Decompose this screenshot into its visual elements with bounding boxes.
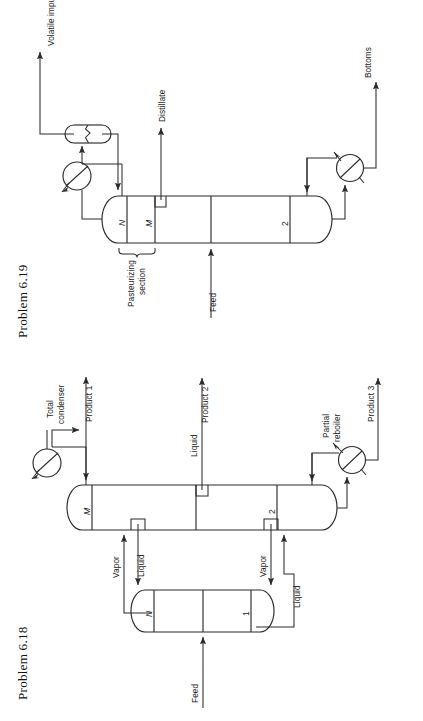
pipe-reboiler-vapor-return bbox=[337, 477, 347, 508]
label-liquid-right: Liquid bbox=[293, 585, 302, 608]
label-bottoms: Bottoms bbox=[364, 47, 373, 78]
problem-6-18-drawing: Problem 6.18 M 2 bbox=[0, 360, 423, 721]
pre-stage-label-1: 1 bbox=[241, 611, 251, 616]
pipe-column-to-partial-reboiler bbox=[312, 453, 339, 485]
figure-caption: Problem 6.18 bbox=[15, 626, 30, 700]
diagram-page: Problem 6.19 N M 2 bbox=[0, 0, 423, 721]
label-liquid-mid: Liquid bbox=[190, 434, 199, 457]
label-product-3: Product 3 bbox=[367, 385, 376, 422]
label-condenser: condenser bbox=[57, 384, 66, 424]
label-section: section bbox=[138, 268, 147, 295]
column-vessel bbox=[102, 196, 332, 243]
total-condenser bbox=[32, 449, 61, 479]
problem-6-19-drawing: Problem 6.19 N M 2 bbox=[0, 0, 423, 360]
pipe-condenser-outlet bbox=[52, 430, 79, 447]
label-product-2: Product 2 bbox=[201, 386, 210, 423]
figure-problem-6-19: Problem 6.19 N M 2 bbox=[0, 0, 423, 360]
pipe-liquid-right bbox=[256, 535, 294, 627]
label-pasteurizing: Pasteurizing bbox=[127, 260, 136, 307]
label-product-1: Product 1 bbox=[85, 385, 94, 422]
label-feed: Feed bbox=[191, 683, 200, 703]
label-distillate: Distillate bbox=[158, 89, 167, 122]
label-partial: Partial bbox=[322, 414, 331, 438]
label-liquid-left: Liquid bbox=[137, 554, 146, 577]
condenser bbox=[62, 162, 91, 192]
stage-label-N: N bbox=[117, 219, 127, 226]
label-total: Total bbox=[46, 400, 55, 418]
partial-reboiler bbox=[333, 443, 366, 475]
stage-label-2: 2 bbox=[280, 221, 290, 226]
pipe-column-to-reboiler bbox=[307, 158, 337, 196]
main-column-vessel bbox=[67, 485, 337, 530]
stage-label-M: M bbox=[144, 219, 154, 227]
main-stage-label-2: 2 bbox=[267, 509, 277, 514]
main-stage-label-M: M bbox=[82, 507, 92, 515]
label-volatile-impurities: Volatile impurities bbox=[47, 0, 56, 46]
figure-problem-6-18: Problem 6.18 M 2 bbox=[0, 360, 423, 721]
pasteurizing-brace bbox=[119, 248, 155, 258]
label-feed: Feed bbox=[209, 292, 218, 312]
reboiler bbox=[334, 152, 364, 183]
pipe-volatile-impurities bbox=[40, 52, 74, 134]
label-vapor-right: Vapor bbox=[259, 555, 268, 577]
pipe-distillate bbox=[155, 128, 166, 207]
label-vapor-left: Vapor bbox=[112, 556, 121, 578]
pipe-reflux-return bbox=[82, 190, 102, 219]
pipe-bottoms bbox=[364, 82, 376, 168]
pipe-reboiler-vapor-return bbox=[332, 185, 345, 219]
figure-caption: Problem 6.19 bbox=[15, 264, 30, 338]
label-reboiler: reboiler bbox=[333, 413, 342, 442]
